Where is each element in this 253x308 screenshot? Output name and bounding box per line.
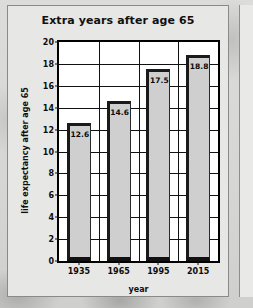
plot-area: 2018161412108642012.6193514.6196517.5199… <box>57 40 220 263</box>
x-tick-label: 1965 <box>107 267 129 276</box>
y-tick-mark <box>55 195 59 196</box>
y-tick-mark <box>55 261 59 262</box>
gridline-vertical <box>178 42 179 261</box>
bar: 18.8 <box>186 55 210 261</box>
bar-value-label: 12.6 <box>70 130 90 139</box>
y-tick-mark <box>55 85 59 86</box>
x-tick-label: 1935 <box>68 267 90 276</box>
y-tick-label: 8 <box>48 169 54 178</box>
gridline-vertical <box>99 42 100 261</box>
chart-card: Extra years after age 65 life expectancy… <box>7 5 229 297</box>
y-tick-label: 16 <box>43 81 54 90</box>
x-tick-mark <box>158 261 159 265</box>
x-tick-mark <box>78 261 79 265</box>
y-tick-label: 2 <box>48 235 54 244</box>
x-tick-label: 2015 <box>187 267 209 276</box>
bar-value-label: 14.6 <box>110 108 130 117</box>
adjacent-panel-fragment <box>239 5 253 297</box>
y-tick-mark <box>55 151 59 152</box>
y-tick-label: 6 <box>48 191 54 200</box>
bar: 12.6 <box>67 123 91 261</box>
y-tick-label: 4 <box>48 213 54 222</box>
y-tick-label: 10 <box>43 147 54 156</box>
y-tick-mark <box>55 63 59 64</box>
y-axis-title: life expectancy after age 65 <box>21 86 30 216</box>
bar: 14.6 <box>107 101 131 261</box>
y-tick-mark <box>55 217 59 218</box>
y-tick-label: 14 <box>43 103 54 112</box>
y-tick-mark <box>55 129 59 130</box>
y-tick-mark <box>55 173 59 174</box>
gridline-vertical <box>139 42 140 261</box>
x-tick-mark <box>198 261 199 265</box>
y-tick-mark <box>55 107 59 108</box>
y-tick-label: 12 <box>43 125 54 134</box>
x-axis-title: year <box>57 285 220 294</box>
x-tick-mark <box>118 261 119 265</box>
bar-value-label: 18.8 <box>189 62 209 71</box>
bar: 17.5 <box>146 69 170 261</box>
x-tick-label: 1995 <box>147 267 169 276</box>
y-tick-label: 20 <box>43 38 54 47</box>
y-tick-mark <box>55 239 59 240</box>
bar-value-label: 17.5 <box>149 76 169 85</box>
y-tick-mark <box>55 42 59 43</box>
y-tick-label: 0 <box>48 257 54 266</box>
chart-title: Extra years after age 65 <box>8 14 228 27</box>
plot-inner: 2018161412108642012.6193514.6196517.5199… <box>59 42 218 261</box>
y-tick-label: 18 <box>43 59 54 68</box>
